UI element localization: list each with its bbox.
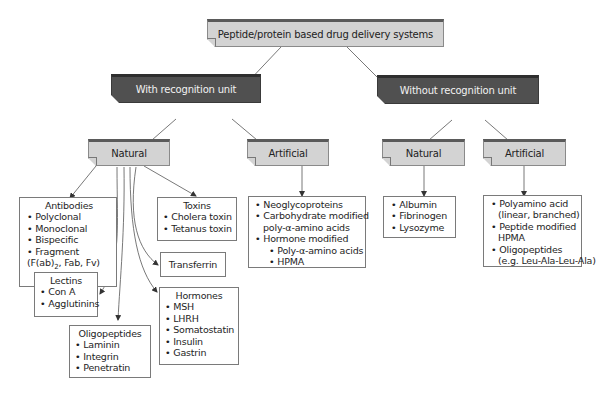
- page-fold-icon: [111, 95, 119, 103]
- list-item-continuation: (F(ab)2, Fab, Fv): [27, 257, 111, 273]
- list-item: Con A: [40, 286, 92, 297]
- antibodies-title: Antibodies: [27, 200, 111, 211]
- without-recognition-label: Without recognition unit: [400, 85, 516, 96]
- lectins-title: Lectins: [40, 275, 92, 286]
- transferrin-box: Transferrin: [160, 252, 226, 277]
- transferrin-title: Transferrin: [169, 259, 217, 270]
- list-item: Oligopeptides: [491, 244, 576, 255]
- with-recognition-node: With recognition unit: [111, 74, 261, 103]
- list-item-continuation: poly-α-amino acids: [255, 222, 360, 233]
- artificial-no-recognition-box: Polyamino acid (linear, branched) Peptid…: [483, 195, 582, 267]
- list-item: Gastrin: [165, 347, 233, 358]
- list-item-continuation: (e.g. Leu-Ala-Leu-Ala): [491, 255, 576, 266]
- list-item: Hormone modified: [255, 233, 360, 244]
- list-item: Carbohydrate modified: [255, 210, 360, 221]
- artificial-with-node: Artificial: [247, 139, 329, 166]
- fragment-text: (F(ab): [27, 257, 54, 268]
- list-item: Integrin: [75, 351, 145, 362]
- list-item: Polyclonal: [27, 211, 111, 222]
- root-node: Peptide/protein based drug delivery syst…: [207, 19, 444, 47]
- artificial-without-label: Artificial: [505, 148, 544, 159]
- list-item-continuation: HPMA: [491, 232, 576, 243]
- without-recognition-node: Without recognition unit: [377, 75, 539, 104]
- list-item: Fragment: [27, 246, 111, 257]
- natural-with-label: Natural: [111, 148, 147, 159]
- oligopeptides-title: Oligopeptides: [75, 328, 145, 339]
- list-item: Insulin: [165, 336, 233, 347]
- artificial-without-node: Artificial: [483, 139, 566, 166]
- list-item: Laminin: [75, 339, 145, 350]
- list-item: Lysozyme: [391, 222, 450, 233]
- list-item: Peptide modified: [491, 221, 576, 232]
- list-item: LHRH: [165, 313, 233, 324]
- list-item: Penetratin: [75, 362, 145, 373]
- list-subitem: Poly-α-amino acids: [255, 245, 360, 256]
- lectins-box: Lectins Con A Agglutinins: [34, 272, 98, 317]
- artificial-recognition-box: Neoglycoproteins Carbohydrate modified p…: [248, 196, 366, 268]
- list-item: Fibrinogen: [391, 210, 450, 221]
- list-item: MSH: [165, 301, 233, 312]
- hormones-box: Hormones MSH LHRH Somatostatin Insulin G…: [159, 287, 239, 365]
- fragment-text-rest: , Fab, Fv): [59, 257, 100, 268]
- list-item: Bispecific: [27, 234, 111, 245]
- list-item: Cholera toxin: [163, 211, 231, 222]
- list-item: Monoclonal: [27, 223, 111, 234]
- list-item: Albumin: [391, 199, 450, 210]
- natural-no-recognition-box: Albumin Fibrinogen Lysozyme: [383, 196, 456, 238]
- root-label: Peptide/protein based drug delivery syst…: [218, 29, 433, 40]
- list-item: Agglutinins: [40, 298, 92, 309]
- list-item: Neoglycoproteins: [255, 199, 360, 210]
- natural-without-label: Natural: [406, 148, 442, 159]
- page-fold-icon: [377, 96, 385, 104]
- toxins-title: Toxins: [163, 200, 231, 211]
- with-recognition-label: With recognition unit: [136, 84, 237, 95]
- list-subitem: HPMA: [255, 256, 360, 267]
- oligopeptides-box: Oligopeptides Laminin Integrin Penetrati…: [69, 325, 151, 378]
- list-item-continuation: (linear, branched): [491, 209, 576, 220]
- toxins-box: Toxins Cholera toxin Tetanus toxin: [157, 197, 237, 241]
- list-item: Tetanus toxin: [163, 223, 231, 234]
- artificial-with-label: Artificial: [268, 148, 307, 159]
- hormones-title: Hormones: [165, 290, 233, 301]
- natural-with-node: Natural: [88, 139, 170, 166]
- list-item: Somatostatin: [165, 324, 233, 335]
- natural-without-node: Natural: [382, 139, 465, 166]
- list-item: Polyamino acid: [491, 198, 576, 209]
